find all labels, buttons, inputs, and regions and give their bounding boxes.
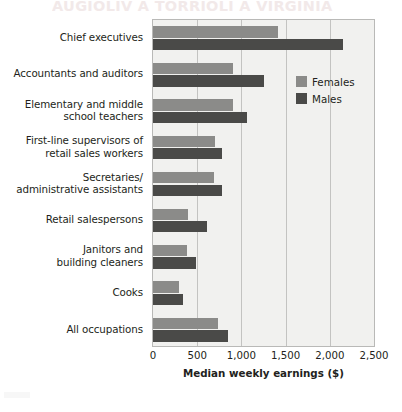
legend-swatch-icon (296, 76, 307, 87)
paper-texture (4, 392, 30, 398)
category-label: Elementary and middleschool teachers (0, 98, 143, 123)
category-label: Chief executives (0, 31, 143, 43)
gridline (241, 20, 242, 346)
x-tick-label: 2,500 (359, 350, 388, 361)
category-label-line: Elementary and middle (0, 98, 143, 110)
bar-females-7 (153, 281, 179, 292)
bar-females-4 (153, 172, 214, 183)
plot-area (152, 19, 375, 347)
bar-males-4 (153, 185, 222, 196)
bar-females-5 (153, 209, 188, 220)
bar-males-0 (153, 39, 343, 50)
bar-males-2 (153, 112, 247, 123)
gridline (286, 20, 287, 346)
category-label-line: Retail salespersons (0, 213, 143, 225)
category-label-line: All occupations (0, 323, 143, 335)
category-label-line: school teachers (0, 110, 143, 122)
x-axis-title: Median weekly earnings ($) (152, 367, 375, 379)
bar-males-6 (153, 257, 196, 268)
bar-females-1 (153, 63, 233, 74)
bar-males-1 (153, 75, 264, 86)
chart-legend: FemalesMales (296, 74, 370, 108)
category-label: Janitors andbuilding cleaners (0, 243, 143, 268)
category-label: Retail salespersons (0, 213, 143, 225)
bleed-through-headline: AUGIOLIV A TORRIOLI A VIRGINIA (52, 0, 392, 14)
category-label-line: Secretaries/ (0, 171, 143, 183)
category-label-line: Cooks (0, 286, 143, 298)
category-label-line: Janitors and (0, 243, 143, 255)
bar-males-3 (153, 148, 222, 159)
category-label-line: First-line supervisors of (0, 134, 143, 146)
x-tick-label: 1,000 (227, 350, 256, 361)
x-tick-label: 1,500 (271, 350, 300, 361)
x-axis-tick-labels: 05001,0001,5002,0002,500 (152, 350, 375, 364)
bar-females-8 (153, 318, 218, 329)
bar-females-0 (153, 26, 278, 37)
bar-males-8 (153, 330, 228, 341)
x-tick-label: 500 (187, 350, 206, 361)
legend-label: Females (312, 76, 355, 88)
category-label-line: Chief executives (0, 31, 143, 43)
category-axis: Chief executivesAccountants and auditors… (0, 19, 148, 347)
category-label: First-line supervisors ofretail sales wo… (0, 134, 143, 159)
gridline (330, 20, 331, 346)
legend-label: Males (312, 93, 342, 105)
category-label-line: Accountants and auditors (0, 67, 143, 79)
category-label-line: building cleaners (0, 256, 143, 268)
category-label: Cooks (0, 286, 143, 298)
category-label: All occupations (0, 323, 143, 335)
category-label: Secretaries/administrative assistants (0, 171, 143, 196)
legend-item-males[interactable]: Males (296, 91, 370, 106)
legend-swatch-icon (296, 93, 307, 104)
bar-males-7 (153, 294, 183, 305)
bar-males-5 (153, 221, 207, 232)
chart-figure: AUGIOLIV A TORRIOLI A VIRGINIA Chief exe… (0, 0, 402, 412)
x-tick-label: 0 (150, 350, 156, 361)
x-tick-label: 2,000 (315, 350, 344, 361)
bar-females-2 (153, 99, 233, 110)
legend-item-females[interactable]: Females (296, 74, 370, 89)
bar-females-6 (153, 245, 187, 256)
category-label-line: retail sales workers (0, 147, 143, 159)
bar-females-3 (153, 136, 215, 147)
category-label: Accountants and auditors (0, 67, 143, 79)
category-label-line: administrative assistants (0, 183, 143, 195)
